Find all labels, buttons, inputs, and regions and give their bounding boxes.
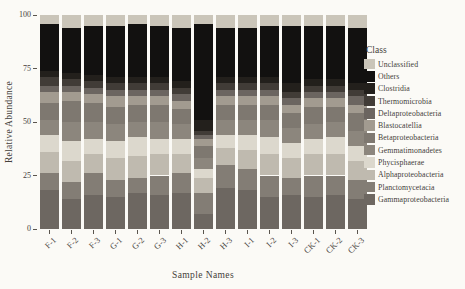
segment-F-1-betaproteobacteria — [40, 103, 59, 120]
y-tick-25: 25 — [0, 171, 38, 181]
segment-F-1-phycisphaerae — [40, 135, 59, 152]
segment-G-1-others — [106, 26, 125, 77]
segment-G-3-betaproteobacteria — [150, 105, 169, 122]
segment-H-3-unclassified — [216, 15, 235, 28]
segment-G-1-blastocatellia — [106, 96, 125, 107]
segment-I-1-unclassified — [238, 15, 257, 28]
x-tick-mark — [181, 230, 182, 234]
segment-CK-2-gemmatimonadetes — [326, 122, 345, 137]
x-tick-mark — [137, 230, 138, 234]
segment-I-3-phycisphaerae — [282, 143, 301, 158]
legend-label: Clostridia — [378, 84, 410, 93]
y-tick-mark — [33, 15, 37, 16]
segment-F-2-phycisphaerae — [62, 141, 81, 160]
legend-label: Blastocatellia — [378, 121, 422, 130]
segment-F-3-gemmatimonadetes — [84, 122, 103, 139]
segment-I-1-planctomycetacia — [238, 169, 257, 190]
bar-G-2 — [128, 15, 147, 229]
segment-G-2-alphaproteobacteria — [128, 156, 147, 177]
bar-H-1 — [172, 15, 191, 229]
segment-I-3-alphaproteobacteria — [282, 158, 301, 177]
segment-CK-1-gammaproteobacteria — [304, 197, 323, 229]
segment-F-1-unclassified — [40, 15, 59, 24]
x-tick-mark — [291, 230, 292, 234]
y-tick-mark — [33, 175, 37, 176]
segment-H-1-betaproteobacteria — [172, 109, 191, 124]
segment-I-3-gemmatimonadetes — [282, 128, 301, 143]
segment-G-2-blastocatellia — [128, 96, 147, 105]
segment-H-2-gemmatimonadetes — [194, 158, 213, 169]
segment-CK-2-others — [326, 26, 345, 80]
legend-title: Class — [366, 45, 464, 55]
segment-F-3-unclassified — [84, 15, 103, 26]
segment-I-1-gemmatimonadetes — [238, 120, 257, 135]
segment-I-3-betaproteobacteria — [282, 113, 301, 128]
y-tick-mark — [33, 122, 37, 123]
segment-F-2-gemmatimonadetes — [62, 122, 81, 141]
legend-label: Planctomycetacia — [378, 183, 435, 192]
segment-H-1-gemmatimonadetes — [172, 124, 191, 139]
segment-G-1-gammaproteobacteria — [106, 197, 125, 229]
legend-label: Phycisphaerae — [378, 158, 424, 167]
x-tick-mark — [115, 230, 116, 234]
segment-I-1-alphaproteobacteria — [238, 150, 257, 169]
segment-H-1-alphaproteobacteria — [172, 154, 191, 173]
segment-H-3-alphaproteobacteria — [216, 148, 235, 165]
segment-F-2-others — [62, 28, 81, 73]
segment-H-1-unclassified — [172, 15, 191, 28]
segment-G-3-gemmatimonadetes — [150, 122, 169, 139]
segment-F-2-blastocatellia — [62, 92, 81, 101]
segment-F-3-gammaproteobacteria — [84, 195, 103, 229]
y-tick-label: 100 — [19, 10, 31, 20]
segment-G-1-alphaproteobacteria — [106, 158, 125, 179]
segment-I-3-others — [282, 26, 301, 84]
bar-CK-1 — [304, 15, 323, 229]
segment-H-2-unclassified — [194, 15, 213, 24]
segment-G-3-alphaproteobacteria — [150, 154, 169, 175]
legend-label: Alphaproteobacteria — [378, 170, 444, 179]
segment-F-3-phycisphaerae — [84, 139, 103, 154]
segment-F-3-others — [84, 26, 103, 75]
legend-label: Deltaproteobacteria — [378, 109, 441, 118]
segment-I-2-planctomycetacia — [260, 176, 279, 197]
segment-CK-1-gemmatimonadetes — [304, 124, 323, 139]
legend-swatch-others — [364, 71, 375, 82]
segment-H-3-planctomycetacia — [216, 165, 235, 189]
legend-swatch-clostridia — [364, 83, 375, 94]
segment-I-2-alphaproteobacteria — [260, 154, 279, 175]
segment-H-2-betaproteobacteria — [194, 146, 213, 159]
legend-item-gammaproteobacteria: Gammaproteobacteria — [364, 193, 464, 205]
segment-F-1-gemmatimonadetes — [40, 120, 59, 135]
segment-H-2-planctomycetacia — [194, 193, 213, 214]
segment-I-2-unclassified — [260, 15, 279, 26]
bar-I-1 — [238, 15, 257, 229]
segment-H-1-blastocatellia — [172, 101, 191, 110]
segment-G-1-gemmatimonadetes — [106, 124, 125, 141]
segment-H-2-clostridia — [194, 120, 213, 131]
segment-I-3-planctomycetacia — [282, 178, 301, 195]
x-tick-mark — [159, 230, 160, 234]
segment-F-2-gammaproteobacteria — [62, 199, 81, 229]
bar-H-2 — [194, 15, 213, 229]
segment-G-2-gammaproteobacteria — [128, 193, 147, 229]
y-tick-100: 100 — [0, 10, 38, 20]
bar-G-1 — [106, 15, 125, 229]
segment-F-1-gammaproteobacteria — [40, 190, 59, 229]
stacked-bar-chart-figure: Relative Abundance 1007550250 F-1F-2F-3G… — [0, 0, 465, 289]
y-tick-label: 50 — [23, 117, 31, 127]
segment-CK-2-blastocatellia — [326, 98, 345, 107]
plot-area — [38, 15, 368, 229]
legend-item-gemmatimonadetes: Gemmatimonadetes — [364, 144, 464, 156]
segment-I-3-blastocatellia — [282, 105, 301, 114]
legend-label: Unclassified — [378, 60, 418, 69]
segment-F-1-others — [40, 24, 59, 71]
legend-swatch-alphaproteobacteria — [364, 170, 375, 181]
segment-I-1-betaproteobacteria — [238, 105, 257, 120]
y-tick-50: 50 — [0, 117, 38, 127]
legend-swatch-gemmatimonadetes — [364, 145, 375, 156]
segment-CK-3-unclassified — [348, 15, 367, 28]
legend-swatch-unclassified — [364, 59, 375, 70]
segment-G-3-planctomycetacia — [150, 176, 169, 195]
legend-swatch-deltaproteobacteria — [364, 108, 375, 119]
segment-G-2-betaproteobacteria — [128, 105, 147, 122]
